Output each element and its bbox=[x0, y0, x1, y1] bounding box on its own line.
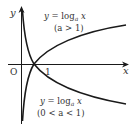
label-increasing-equation: y = loga x bbox=[43, 11, 86, 22]
tick-label-1: 1 bbox=[45, 67, 51, 77]
x-axis-label: x bbox=[123, 65, 129, 76]
label-decreasing-equation: y = loga x bbox=[39, 96, 82, 107]
label-decreasing-condition: (0 < a < 1) bbox=[37, 108, 85, 118]
log-graph: y x O 1 y = loga x (a > 1) y = loga x (0… bbox=[0, 0, 138, 134]
origin-label: O bbox=[10, 67, 17, 77]
y-axis-label: y bbox=[9, 7, 16, 18]
curve-log-a-greater-1 bbox=[23, 25, 127, 121]
label-increasing-condition: (a > 1) bbox=[54, 23, 84, 33]
